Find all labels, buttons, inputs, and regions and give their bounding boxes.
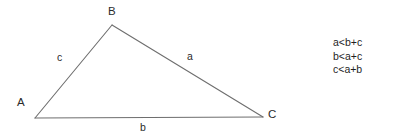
side-label-b: b	[140, 122, 146, 133]
side-label-a: a	[187, 51, 193, 62]
vertex-label-b: B	[108, 5, 116, 17]
vertex-label-a: A	[17, 96, 25, 108]
inequality-line-c: c<a+b	[333, 63, 391, 77]
vertex-label-c: C	[268, 108, 276, 120]
triangle-side-a-line	[112, 25, 263, 117]
inequality-line-b: b<a+c	[333, 50, 391, 64]
side-label-c: c	[57, 52, 62, 63]
triangle-inequality-list: a<b+c b<a+c c<a+b	[333, 36, 391, 77]
triangle-side-c-line	[35, 25, 112, 118]
inequality-line-a: a<b+c	[333, 36, 391, 50]
triangle-side-b-line	[35, 117, 263, 118]
triangle-inequality-figure: A B C c a b a<b+c b<a+c c<a+b	[0, 0, 394, 140]
